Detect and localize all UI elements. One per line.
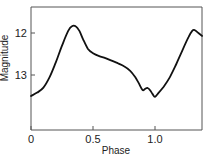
plot-frame <box>31 7 202 130</box>
x-tick-label: 0 <box>28 133 34 145</box>
y-axis-ticks: 1213 <box>15 27 35 81</box>
light-curve-chart: 1213 00.51.0 Phase Magnitude <box>0 0 206 159</box>
x-axis-title: Phase <box>102 145 131 156</box>
plot-border <box>31 7 202 130</box>
y-tick-label: 12 <box>15 27 27 39</box>
x-tick-label: 1.0 <box>147 133 162 145</box>
light-curve-line <box>31 26 202 97</box>
y-tick-label: 13 <box>15 69 27 81</box>
x-tick-label: 0.5 <box>85 133 100 145</box>
y-axis-title: Magnitude <box>0 34 10 81</box>
x-axis-ticks: 00.51.0 <box>28 126 163 145</box>
